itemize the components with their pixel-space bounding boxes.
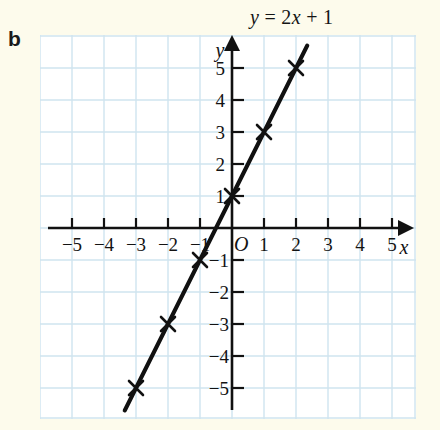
origin-label: O [234,233,248,255]
x-tick-label: 2 [291,234,301,255]
y-tick-label: 5 [216,58,226,79]
equation-lhs: y [250,6,259,28]
plot-svg: −5 −4 −3 −2 −1 1 2 3 4 5 5 4 3 2 1 −1 −2… [40,35,416,419]
x-tick-label: −4 [94,234,115,255]
x-tick-label: −2 [158,234,178,255]
y-tick-label: −3 [209,314,229,335]
equation-label: y = 2x + 1 [250,6,333,29]
x-tick-label: −3 [126,234,146,255]
x-tick-label: 3 [323,234,333,255]
y-axis-label: y [214,39,225,62]
coordinate-plot: −5 −4 −3 −2 −1 1 2 3 4 5 5 4 3 2 1 −1 −2… [40,35,416,419]
figure-page: b y = 2x + 1 [0,0,440,430]
y-tick-label: 3 [216,122,226,143]
x-tick-label: 5 [387,234,397,255]
y-tick-label: 1 [216,186,226,207]
x-tick-label: 1 [259,234,269,255]
y-tick-label: 2 [216,154,226,175]
y-tick-label: −2 [209,282,229,303]
x-tick-label: 4 [355,234,365,255]
equation-operator: = 2 [259,6,291,28]
x-axis-label: x [399,236,409,258]
part-label: b [8,28,21,49]
y-tick-label: −4 [209,346,230,367]
y-tick-label: 4 [216,90,226,111]
equation-constant: + 1 [301,6,333,28]
x-tick-label: −5 [62,234,82,255]
equation-variable: x [292,6,301,28]
y-tick-label: −5 [209,378,229,399]
y-tick-label: −1 [209,250,229,271]
